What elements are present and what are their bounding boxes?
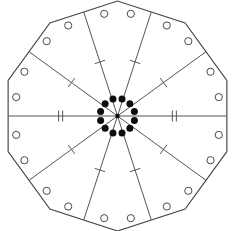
tick-spoke-4-0 bbox=[68, 145, 74, 154]
vertex-circle-1-0 bbox=[185, 187, 192, 194]
vertex-circle-8-0 bbox=[163, 22, 170, 29]
vertex-circle-2-0 bbox=[127, 215, 134, 222]
center-dot-0 bbox=[131, 117, 138, 124]
vertex-circle-3-0 bbox=[65, 203, 72, 210]
center-dot-2 bbox=[119, 129, 126, 136]
vertex-circle-1-1 bbox=[163, 203, 170, 210]
vertex-circle-5-0 bbox=[13, 93, 20, 100]
vertex-circle-9-1 bbox=[215, 93, 222, 100]
center-dot-11 bbox=[131, 108, 138, 115]
vertex-circle-6-1 bbox=[65, 22, 72, 29]
center-dot-3 bbox=[109, 129, 116, 136]
vertex-circle-8-1 bbox=[185, 38, 192, 45]
vertex-circle-4-0 bbox=[21, 157, 28, 164]
tick-spoke-9-0 bbox=[160, 78, 166, 87]
center-hub-dot bbox=[115, 114, 119, 118]
vertex-circle-6-0 bbox=[43, 38, 50, 45]
vertex-circle-9-0 bbox=[207, 68, 214, 75]
center-dot-10 bbox=[126, 100, 133, 107]
vertex-circle-7-0 bbox=[101, 10, 108, 17]
vertex-circle-2-1 bbox=[101, 215, 108, 222]
center-dot-5 bbox=[97, 117, 104, 124]
center-dot-6 bbox=[97, 108, 104, 115]
center-dot-1 bbox=[126, 125, 133, 132]
vertex-circle-5-1 bbox=[21, 68, 28, 75]
center-dot-8 bbox=[109, 96, 116, 103]
center-dot-9 bbox=[119, 96, 126, 103]
vertex-circle-7-1 bbox=[127, 10, 134, 17]
vertex-circle-3-1 bbox=[43, 187, 50, 194]
figure-container bbox=[0, 0, 235, 231]
vertex-circle-4-1 bbox=[13, 131, 20, 138]
vertex-circle-0-0 bbox=[215, 131, 222, 138]
tick-spoke-6-0 bbox=[68, 78, 74, 87]
decagon-diagram bbox=[0, 0, 235, 231]
center-dot-7 bbox=[102, 100, 109, 107]
vertex-circle-0-1 bbox=[207, 157, 214, 164]
tick-spoke-1-0 bbox=[160, 145, 166, 154]
center-hub-group bbox=[115, 114, 119, 118]
center-dot-4 bbox=[102, 125, 109, 132]
